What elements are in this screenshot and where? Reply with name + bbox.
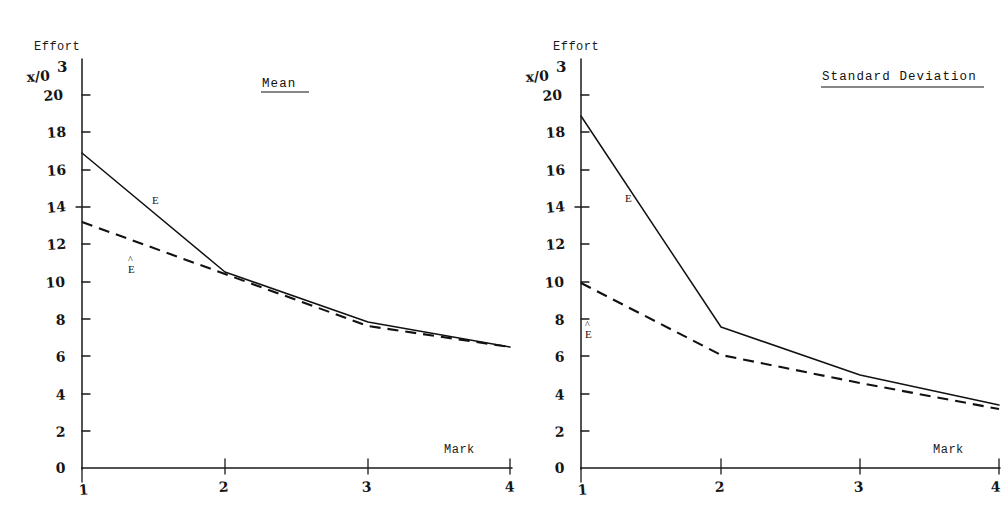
right-series-Ehat-dashed bbox=[581, 283, 999, 409]
right-y-unit-group: x/0 3 bbox=[525, 58, 566, 85]
right-ytick-12: 12 bbox=[545, 236, 566, 253]
left-ytick-8: 8 bbox=[55, 312, 66, 328]
right-ytick-14: 14 bbox=[545, 198, 566, 216]
left-ytick-4: 4 bbox=[55, 386, 66, 403]
right-y-axis-caption: Effort bbox=[553, 40, 599, 54]
left-label-E-solid: E bbox=[152, 194, 159, 206]
two-panel-line-chart-figure: Effort x/0 3 bbox=[0, 0, 1004, 519]
left-panel-title-group: Mean bbox=[261, 77, 309, 92]
right-y-tick-labels: 20 18 16 14 12 10 8 6 4 2 0 bbox=[542, 86, 566, 476]
left-y-tick-labels: 20 18 16 14 12 10 8 6 4 2 0 bbox=[43, 86, 67, 476]
right-xtick-3: 3 bbox=[853, 479, 864, 495]
left-ytick-10: 10 bbox=[45, 273, 66, 291]
left-xtick-1: 1 bbox=[78, 481, 89, 498]
left-ytick-2: 2 bbox=[55, 424, 66, 440]
left-ytick-14: 14 bbox=[46, 198, 67, 216]
left-y-unit-exponent: 3 bbox=[57, 58, 67, 76]
panel-standard-deviation: Effort x/0 3 20 18 bbox=[525, 40, 1001, 498]
right-xtick-1: 1 bbox=[577, 481, 588, 498]
panel-mean: Effort x/0 3 bbox=[26, 40, 515, 498]
right-ytick-0: 0 bbox=[554, 459, 565, 476]
left-x-tick-labels: 1 2 3 4 bbox=[78, 478, 515, 497]
left-ytick-16: 16 bbox=[46, 162, 67, 179]
left-ytick-12: 12 bbox=[46, 236, 67, 253]
left-ytick-6: 6 bbox=[55, 349, 66, 365]
left-ytick-18: 18 bbox=[46, 124, 67, 141]
right-ytick-6: 6 bbox=[554, 349, 565, 365]
left-y-unit-group: x/0 3 bbox=[26, 58, 67, 85]
right-ytick-20: 20 bbox=[542, 86, 563, 104]
left-x-ticks bbox=[82, 459, 510, 482]
left-y-unit-mantissa: x/0 bbox=[26, 67, 51, 85]
right-x-tick-labels: 1 2 3 4 bbox=[577, 478, 1001, 497]
right-series-E-solid bbox=[581, 116, 999, 405]
right-y-ticks bbox=[575, 95, 589, 431]
right-xtick-2: 2 bbox=[714, 479, 725, 495]
left-ytick-0: 0 bbox=[55, 459, 66, 476]
right-ytick-8: 8 bbox=[554, 312, 565, 328]
figure-root: Effort x/0 3 bbox=[0, 0, 1004, 519]
right-x-axis-caption: Mark bbox=[933, 443, 964, 457]
right-panel-title: Standard Deviation bbox=[822, 70, 977, 84]
left-label-Ehat-group: ^ E bbox=[128, 254, 135, 275]
right-label-Ehat: E bbox=[585, 328, 592, 340]
left-series-Ehat-dashed bbox=[82, 222, 510, 347]
left-ytick-20: 20 bbox=[43, 86, 64, 104]
right-xtick-4: 4 bbox=[990, 478, 1001, 495]
left-x-axis-caption: Mark bbox=[444, 443, 475, 457]
left-panel-title: Mean bbox=[262, 77, 296, 91]
right-label-E-solid: E bbox=[625, 192, 632, 204]
right-y-unit-exponent: 3 bbox=[556, 58, 566, 76]
left-xtick-3: 3 bbox=[361, 479, 372, 495]
right-ytick-2: 2 bbox=[554, 424, 565, 440]
left-label-Ehat: E bbox=[128, 263, 135, 275]
right-ytick-18: 18 bbox=[545, 124, 566, 141]
right-x-ticks bbox=[581, 459, 999, 482]
left-y-axis-caption: Effort bbox=[34, 40, 80, 54]
left-series-E-solid bbox=[82, 153, 510, 347]
right-label-Ehat-group: ^ E bbox=[585, 319, 592, 340]
right-ytick-16: 16 bbox=[545, 162, 566, 179]
right-panel-title-group: Standard Deviation bbox=[821, 70, 984, 87]
left-xtick-4: 4 bbox=[504, 478, 515, 495]
left-xtick-2: 2 bbox=[218, 479, 229, 495]
right-ytick-10: 10 bbox=[544, 273, 565, 291]
right-y-unit-mantissa: x/0 bbox=[525, 67, 550, 85]
left-y-ticks bbox=[76, 95, 90, 431]
right-ytick-4: 4 bbox=[554, 386, 565, 403]
